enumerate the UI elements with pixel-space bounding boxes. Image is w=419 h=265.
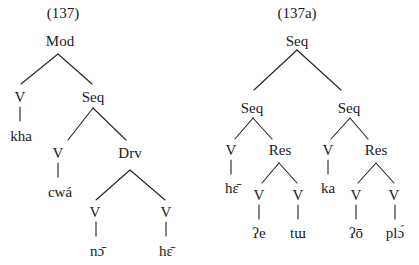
leaf-tu: tɯ — [290, 225, 306, 241]
node-v: V — [161, 204, 172, 220]
node-res-right: Res — [365, 142, 388, 158]
tree-137-nodes: Mod V kha Seq V cwá Drv V nɔ̄ V hɛ̄ — [10, 33, 176, 259]
node-v: V — [323, 142, 334, 158]
tree-edge — [254, 50, 297, 90]
tree-edge — [253, 118, 272, 139]
tree-edge — [331, 118, 350, 139]
tree-137a: (137a) Seq Seq V hɛ̄ Res V ʔe V tɯ Seq V… — [225, 5, 404, 241]
tree-edge — [350, 118, 368, 139]
node-drv: Drv — [118, 145, 142, 161]
node-v: V — [389, 187, 400, 203]
node-v: V — [254, 187, 265, 203]
leaf-glottal-o: ʔō — [349, 225, 363, 241]
leaf-kha: kha — [10, 128, 32, 144]
node-v: V — [293, 187, 304, 203]
leaf-he: hɛ̄ — [159, 243, 176, 259]
tree-edge — [68, 108, 93, 140]
node-mod: Mod — [46, 33, 75, 49]
tree-edge — [297, 50, 341, 90]
tree-edge — [235, 118, 253, 139]
leaf-ka: ka — [321, 180, 336, 196]
node-v: V — [351, 187, 362, 203]
node-v: V — [90, 204, 101, 220]
tree-137: (137) Mod V kha Seq V cwá Drv V nɔ̄ V hɛ… — [10, 5, 176, 259]
leaf-plo: plɔ́ — [386, 225, 405, 241]
node-seq: Seq — [82, 89, 105, 105]
tree-edge — [96, 170, 130, 200]
node-seq-left: Seq — [241, 100, 264, 116]
tree-edge — [58, 54, 92, 84]
node-v: V — [226, 142, 237, 158]
leaf-he: hɛ̄ — [225, 180, 242, 196]
tree-edge — [21, 54, 58, 84]
node-seq-right: Seq — [338, 100, 361, 116]
leaf-no: nɔ̄ — [90, 243, 107, 259]
tree-edge — [279, 163, 297, 183]
node-seq-root: Seq — [286, 33, 309, 49]
node-v: V — [15, 89, 26, 105]
syntax-tree-diagram: (137) Mod V kha Seq V cwá Drv V nɔ̄ V hɛ… — [0, 0, 419, 265]
tree-137a-nodes: Seq Seq V hɛ̄ Res V ʔe V tɯ Seq V ka Res… — [225, 33, 404, 241]
tree-caption-137: (137) — [47, 5, 80, 22]
node-v: V — [53, 145, 64, 161]
tree-caption-137a: (137a) — [277, 5, 316, 22]
node-res-left: Res — [269, 142, 292, 158]
tree-edge — [376, 163, 394, 183]
tree-edge — [262, 163, 279, 183]
tree-edge — [358, 163, 376, 183]
leaf-cwa: cwá — [48, 184, 72, 200]
tree-edge — [93, 108, 126, 140]
leaf-glottal-e: ʔe — [252, 225, 266, 241]
tree-edge — [130, 170, 165, 200]
